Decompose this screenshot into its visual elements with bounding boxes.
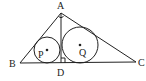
geometry-diagram: A B C D P Q [0, 0, 146, 81]
label-c: C [138, 57, 145, 68]
center-q-dot [79, 44, 82, 47]
label-b: B [9, 58, 16, 69]
side-ac [61, 13, 136, 62]
label-p: P [38, 49, 44, 60]
label-d: D [57, 67, 64, 78]
label-q: Q [79, 47, 87, 58]
label-a: A [57, 0, 65, 11]
center-p-dot [46, 49, 49, 52]
